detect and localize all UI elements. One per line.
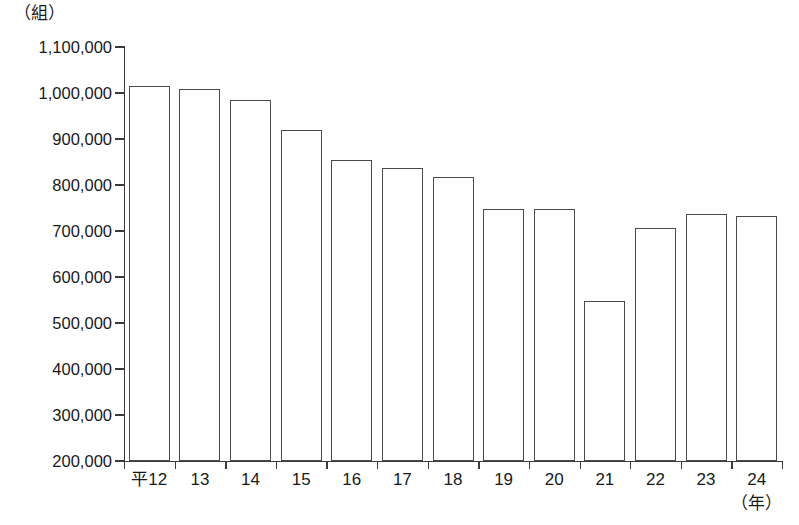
x-axis-tick-label: 13 <box>175 470 226 490</box>
y-axis-tick <box>115 230 124 231</box>
x-axis-tick-label: 16 <box>326 470 377 490</box>
y-axis-tick <box>115 322 124 323</box>
y-axis-tick-label: 200,000 <box>4 453 112 470</box>
x-axis-tick-label: 17 <box>377 470 428 490</box>
y-axis-tick <box>115 184 124 185</box>
x-axis-tick <box>580 461 581 469</box>
x-axis-tick-label: 15 <box>276 470 327 490</box>
bar <box>179 89 220 461</box>
y-axis-tick-label: 400,000 <box>4 361 112 378</box>
y-axis-tick-label: 500,000 <box>4 315 112 332</box>
y-axis-tick-label: 300,000 <box>4 407 112 424</box>
x-axis-tick <box>175 461 176 469</box>
x-axis-tick <box>529 461 530 469</box>
x-axis-tick-label: 19 <box>478 470 529 490</box>
y-axis-tick <box>115 138 124 139</box>
x-axis-tick <box>225 461 226 469</box>
x-axis-tick-label: 21 <box>580 470 631 490</box>
y-axis-tick <box>115 46 124 47</box>
x-axis-tick <box>276 461 277 469</box>
y-axis-tick-label: 600,000 <box>4 269 112 286</box>
bar <box>281 130 322 461</box>
x-axis-tick-label: 平12 <box>124 470 175 490</box>
x-axis-tick <box>731 461 732 469</box>
x-axis-tick <box>630 461 631 469</box>
x-axis-tick <box>478 461 479 469</box>
y-axis-tick <box>115 276 124 277</box>
x-axis-tick-label: 22 <box>630 470 681 490</box>
x-axis-tick-label: 23 <box>681 470 732 490</box>
x-axis-tick <box>428 461 429 469</box>
bar <box>584 301 625 461</box>
y-axis-tick <box>115 368 124 369</box>
y-axis-tick-label: 900,000 <box>4 131 112 148</box>
bar <box>230 100 271 461</box>
y-axis-tick-label: 800,000 <box>4 177 112 194</box>
bar <box>433 177 474 461</box>
bar <box>635 228 676 461</box>
bar <box>129 86 170 461</box>
bar <box>686 214 727 461</box>
x-axis-unit-label: （年） <box>731 494 782 514</box>
x-axis-tick <box>782 461 783 469</box>
x-axis-tick-label: 14 <box>225 470 276 490</box>
x-axis-tick-label: 24 <box>731 470 782 490</box>
bar <box>534 209 575 461</box>
x-axis-tick-label: 18 <box>428 470 479 490</box>
x-axis-tick-label: 20 <box>529 470 580 490</box>
y-axis-tick-labels: 1,100,0001,000,000900,000800,000700,0006… <box>0 0 112 525</box>
x-axis-tick <box>377 461 378 469</box>
y-axis-tick <box>115 460 124 461</box>
bar <box>736 216 777 461</box>
bar <box>331 160 372 461</box>
x-axis-tick <box>326 461 327 469</box>
y-axis-tick-label: 1,000,000 <box>4 85 112 102</box>
bars-layer <box>124 47 782 461</box>
y-axis-tick <box>115 92 124 93</box>
bar-chart: （組） 1,100,0001,000,000900,000800,000700,… <box>0 0 799 525</box>
x-axis-tick <box>124 461 125 469</box>
x-axis-tick <box>681 461 682 469</box>
y-axis-tick-label: 1,100,000 <box>4 39 112 56</box>
y-axis-tick <box>115 414 124 415</box>
bar <box>382 168 423 461</box>
bar <box>483 209 524 461</box>
y-axis-tick-label: 700,000 <box>4 223 112 240</box>
